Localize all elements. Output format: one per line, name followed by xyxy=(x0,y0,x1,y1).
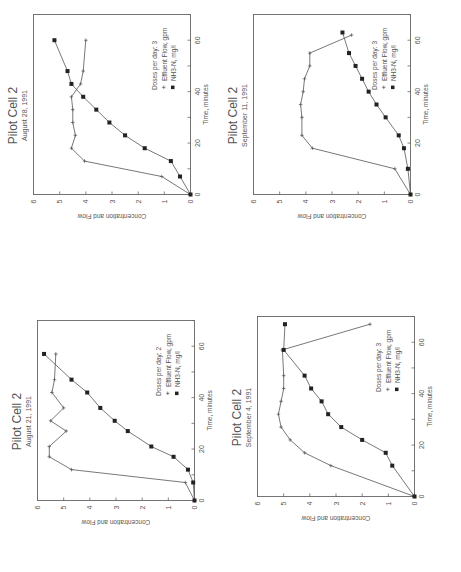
svg-text:0: 0 xyxy=(417,494,424,498)
svg-text:6: 6 xyxy=(254,501,261,505)
x-axis-label: Time, minutes xyxy=(205,389,212,430)
svg-text:0: 0 xyxy=(191,505,198,509)
chart-legend: Doses per day: 3Effluent Flow, gpmNH3-N,… xyxy=(370,27,397,89)
line-chart: Pilot Cell 2September 4, 19910123456Conc… xyxy=(226,302,433,532)
svg-text:5: 5 xyxy=(56,199,63,203)
svg-text:6: 6 xyxy=(30,199,37,203)
svg-text:0: 0 xyxy=(413,192,420,196)
svg-text:40: 40 xyxy=(197,393,204,401)
y-axis-label: Concentration and Flow xyxy=(297,212,366,219)
chart-panel-sep11: Pilot Cell 2September 11, 19910123456Con… xyxy=(222,0,429,230)
chart-title: Pilot Cell 2 xyxy=(225,86,239,144)
svg-text:40: 40 xyxy=(417,389,424,397)
svg-text:0: 0 xyxy=(407,199,414,203)
y-axis: 0123456Concentration and Flow xyxy=(34,497,198,525)
svg-text:1: 1 xyxy=(384,501,391,505)
svg-text:Doses per day: 3: Doses per day: 3 xyxy=(370,40,378,90)
y-axis-label: Concentration and Flow xyxy=(81,518,150,525)
x-axis-label: Time, minutes xyxy=(425,385,432,426)
svg-text:3: 3 xyxy=(108,199,115,203)
y-axis: 0123456Concentration and Flow xyxy=(254,493,418,521)
svg-text:2: 2 xyxy=(354,199,361,203)
svg-text:20: 20 xyxy=(193,139,200,147)
y-axis-label: Concentration and Flow xyxy=(301,514,370,521)
line-chart: Pilot Cell 2August 28, 19910123456Concen… xyxy=(2,0,209,230)
chart-title: Pilot Cell 2 xyxy=(229,388,243,446)
chart-subtitle: September 4, 1991 xyxy=(244,387,252,447)
svg-text:2: 2 xyxy=(358,501,365,505)
svg-text:4: 4 xyxy=(302,199,309,203)
svg-text:1: 1 xyxy=(380,199,387,203)
chart-panel-sep4: Pilot Cell 2September 4, 19910123456Conc… xyxy=(226,302,433,532)
x-axis-label: Time, minutes xyxy=(421,83,428,124)
svg-text:60: 60 xyxy=(417,338,424,346)
svg-text:NH3-N, mg/l: NH3-N, mg/l xyxy=(173,350,181,386)
svg-text:NH3-N, mg/l: NH3-N, mg/l xyxy=(393,346,401,382)
svg-text:6: 6 xyxy=(34,505,41,509)
line-chart: Pilot Cell 2September 11, 19910123456Con… xyxy=(222,0,429,230)
svg-text:Effluent Flow, gpm: Effluent Flow, gpm xyxy=(384,329,392,382)
y-axis: 0123456Concentration and Flow xyxy=(250,191,414,219)
svg-text:5: 5 xyxy=(280,501,287,505)
svg-text:0: 0 xyxy=(411,501,418,505)
svg-text:60: 60 xyxy=(413,36,420,44)
svg-text:3: 3 xyxy=(332,501,339,505)
svg-text:5: 5 xyxy=(276,199,283,203)
svg-text:Effluent Flow, gpm: Effluent Flow, gpm xyxy=(160,27,168,80)
svg-text:60: 60 xyxy=(193,36,200,44)
svg-text:0: 0 xyxy=(187,199,194,203)
svg-text:Effluent Flow, gpm: Effluent Flow, gpm xyxy=(164,333,172,386)
svg-text:3: 3 xyxy=(328,199,335,203)
line-chart: Pilot Cell 2August 21, 19910123456Concen… xyxy=(6,306,213,536)
svg-text:NH3-N, mg/l: NH3-N, mg/l xyxy=(169,44,177,80)
svg-text:20: 20 xyxy=(417,441,424,449)
chart-title: Pilot Cell 2 xyxy=(9,392,23,450)
chart-legend: Doses per day: 3Effluent Flow, gpmNH3-N,… xyxy=(374,329,401,391)
svg-text:4: 4 xyxy=(306,501,313,505)
svg-text:Doses per day: 3: Doses per day: 3 xyxy=(150,40,158,90)
svg-text:0: 0 xyxy=(197,498,204,502)
chart-subtitle: September 11, 1991 xyxy=(240,83,248,146)
svg-text:1: 1 xyxy=(164,505,171,509)
svg-text:60: 60 xyxy=(197,342,204,350)
chart-legend: Doses per day: 3Effluent Flow, gpmNH3-N,… xyxy=(150,27,177,89)
chart-subtitle: August 28, 1991 xyxy=(20,89,28,140)
chart-legend: Doses per day: 2Effluent Flow, gpmNH3-N,… xyxy=(154,333,181,395)
svg-text:4: 4 xyxy=(82,199,89,203)
svg-text:5: 5 xyxy=(60,505,67,509)
chart-panel-aug21: Pilot Cell 2August 21, 19910123456Concen… xyxy=(6,306,213,536)
svg-text:Effluent Flow, gpm: Effluent Flow, gpm xyxy=(380,27,388,80)
svg-text:20: 20 xyxy=(197,445,204,453)
chart-subtitle: August 21, 1991 xyxy=(24,395,32,446)
y-axis: 0123456Concentration and Flow xyxy=(30,191,194,219)
svg-text:4: 4 xyxy=(86,505,93,509)
y-axis-label: Concentration and Flow xyxy=(77,212,146,219)
svg-text:20: 20 xyxy=(413,139,420,147)
svg-text:Doses per day: 2: Doses per day: 2 xyxy=(154,346,162,396)
svg-text:40: 40 xyxy=(413,87,420,95)
svg-text:2: 2 xyxy=(134,199,141,203)
chart-title: Pilot Cell 2 xyxy=(5,86,19,144)
svg-text:0: 0 xyxy=(193,192,200,196)
svg-text:NH3-N, mg/l: NH3-N, mg/l xyxy=(389,44,397,80)
svg-text:2: 2 xyxy=(138,505,145,509)
x-axis-label: Time, minutes xyxy=(201,83,208,124)
svg-text:1: 1 xyxy=(160,199,167,203)
svg-text:40: 40 xyxy=(193,87,200,95)
svg-text:6: 6 xyxy=(250,199,257,203)
chart-panel-aug28: Pilot Cell 2August 28, 19910123456Concen… xyxy=(2,0,209,230)
svg-text:Doses per day: 3: Doses per day: 3 xyxy=(374,342,382,392)
svg-text:3: 3 xyxy=(112,505,119,509)
